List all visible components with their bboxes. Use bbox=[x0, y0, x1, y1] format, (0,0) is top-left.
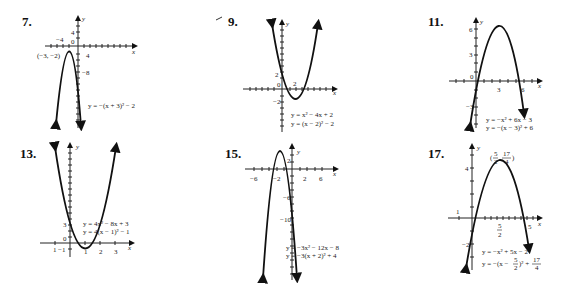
svg-text:1: 1 bbox=[456, 208, 460, 216]
equation-standard: y = x² − 4x + 2 bbox=[291, 111, 333, 119]
vertex-label: (−3, −2) bbox=[37, 52, 61, 60]
svg-text:−2: −2 bbox=[273, 98, 281, 106]
equation-standard: y = −x² + 5x − 2 bbox=[482, 248, 528, 256]
equation-vertex: y = −3(x + 2)² + 4 bbox=[286, 252, 337, 260]
svg-text:0: 0 bbox=[277, 81, 281, 89]
svg-text:x: x bbox=[127, 244, 132, 252]
svg-text:x: x bbox=[131, 48, 136, 56]
equation-vertex: y = (x − 2)² − 2 bbox=[291, 120, 335, 128]
svg-text:2: 2 bbox=[275, 71, 279, 79]
svg-text:6: 6 bbox=[319, 175, 323, 183]
svg-text:17: 17 bbox=[503, 150, 511, 158]
equation-standard: y = −x² + 6x − 3 bbox=[486, 116, 532, 124]
svg-text:x: x bbox=[332, 170, 337, 178]
svg-text:y: y bbox=[75, 143, 80, 151]
svg-text:−2: −2 bbox=[273, 175, 281, 183]
svg-text:(: ( bbox=[490, 154, 493, 162]
svg-text:y: y bbox=[476, 144, 481, 152]
parabola bbox=[470, 26, 524, 126]
equation-vertex: y = 4(x − 1)² − 1 bbox=[83, 228, 130, 236]
svg-text:y: y bbox=[285, 20, 290, 28]
graph-17: y x 1 4 −2 5 2 5 ( 5 2 , 17 4 ) y = −x² … bbox=[448, 144, 542, 272]
svg-text:5: 5 bbox=[498, 222, 502, 230]
svg-text:0: 0 bbox=[63, 235, 67, 243]
svg-text:x: x bbox=[332, 89, 337, 97]
svg-text:3: 3 bbox=[114, 248, 118, 256]
y-tick-label: −8 bbox=[82, 69, 90, 77]
svg-text:1: 1 bbox=[53, 246, 57, 254]
equation-vertex: y = −(x − 5 2 )² + 17 4 bbox=[482, 256, 541, 272]
x-tick-label: −4 bbox=[56, 36, 64, 44]
svg-text:y = −(x −: y = −(x − bbox=[482, 260, 508, 268]
svg-text:5: 5 bbox=[528, 223, 532, 231]
equation-standard: y = −3x² − 12x − 8 bbox=[286, 244, 339, 252]
svg-text:−6: −6 bbox=[250, 175, 258, 183]
svg-text:)² +: )² + bbox=[519, 260, 529, 268]
y-tick-label: 4 bbox=[71, 29, 75, 37]
svg-text:y: y bbox=[81, 15, 86, 23]
svg-text:2: 2 bbox=[287, 157, 291, 165]
graph-7: y x −4 4 0 4 −8 (−3, −2) y = −(x + 3)² −… bbox=[37, 15, 136, 128]
svg-text:4: 4 bbox=[465, 165, 469, 173]
graph-11: y x 6 3 0 3 6 −3 y = −x² + 6x − 3 y = −(… bbox=[449, 18, 542, 132]
graph-15: y x −6 −2 2 6 2 −6 −10 y = −3x² − 12x − … bbox=[245, 146, 339, 280]
svg-text:3: 3 bbox=[63, 221, 67, 229]
y-tick-label: 0 bbox=[71, 38, 75, 46]
svg-text:2: 2 bbox=[293, 80, 297, 88]
graphs-canvas: y x −4 4 0 4 −8 (−3, −2) y = −(x + 3)² −… bbox=[0, 0, 561, 286]
svg-text:5: 5 bbox=[514, 256, 518, 264]
svg-text:6: 6 bbox=[469, 26, 473, 34]
equation-vertex: y = −(x − 3)² + 6 bbox=[486, 124, 534, 132]
svg-text:): ) bbox=[512, 154, 515, 162]
svg-text:x: x bbox=[537, 82, 542, 90]
svg-text:4: 4 bbox=[535, 264, 539, 272]
svg-text:2: 2 bbox=[99, 248, 103, 256]
svg-text:y: y bbox=[296, 148, 301, 156]
svg-text:3: 3 bbox=[469, 51, 473, 59]
x-tick-label: 4 bbox=[86, 52, 90, 60]
svg-text:3: 3 bbox=[497, 86, 501, 94]
equation-standard: y = 4x² − 8x + 3 bbox=[83, 220, 129, 228]
svg-text:17: 17 bbox=[533, 256, 541, 264]
svg-text:2: 2 bbox=[498, 231, 502, 239]
parabola bbox=[56, 51, 81, 126]
svg-text:0: 0 bbox=[470, 73, 474, 81]
svg-text:x: x bbox=[537, 220, 542, 228]
graph-9: y x 2 0 2 −2 y = x² − 4x + 2 y = (x − 2)… bbox=[243, 20, 337, 132]
svg-text:−10: −10 bbox=[280, 216, 291, 224]
svg-text:5: 5 bbox=[494, 150, 498, 158]
equation: y = −(x + 3)² − 2 bbox=[88, 102, 136, 110]
svg-text:−1: −1 bbox=[58, 246, 66, 254]
pen-mark bbox=[216, 17, 222, 20]
svg-text:2: 2 bbox=[303, 175, 307, 183]
svg-text:y: y bbox=[479, 18, 484, 26]
svg-text:2: 2 bbox=[514, 264, 518, 272]
graph-13: y x 3 0 1 −1 1 2 3 y = 4x² − 8x + 3 y = … bbox=[40, 143, 132, 257]
